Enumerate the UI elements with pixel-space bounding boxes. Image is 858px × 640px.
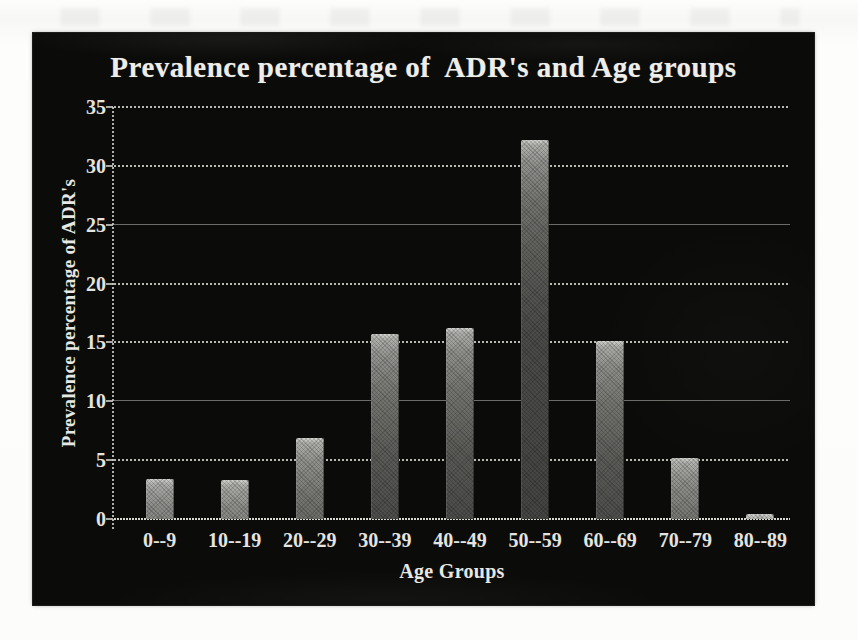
y-tick-mark-10 — [106, 400, 113, 402]
bar-30--39 — [371, 334, 399, 519]
bar-60--69 — [596, 341, 624, 519]
x-tick-label-30--39: 30--39 — [345, 529, 425, 552]
y-axis-line — [112, 107, 114, 531]
y-tick-label-0: 0 — [68, 507, 106, 531]
gridline-35 — [114, 106, 790, 108]
y-tick-label-25: 25 — [68, 213, 106, 237]
y-tick-label-10: 10 — [68, 389, 106, 413]
bar-70--79 — [671, 458, 699, 519]
y-tick-mark-5 — [106, 459, 113, 461]
x-axis-title: Age Groups — [114, 560, 790, 583]
y-tick-mark-0 — [106, 518, 113, 520]
gridline-30 — [114, 165, 790, 167]
y-tick-label-20: 20 — [68, 272, 106, 296]
scan-artifact-top — [60, 8, 800, 26]
x-tick-label-10--19: 10--19 — [195, 529, 275, 552]
x-tick-label-80--89: 80--89 — [720, 529, 800, 552]
bar-80--89 — [746, 514, 774, 519]
y-tick-mark-25 — [106, 224, 113, 226]
x-tick-label-70--79: 70--79 — [645, 529, 725, 552]
bar-40--49 — [446, 328, 474, 519]
y-tick-mark-20 — [106, 283, 113, 285]
y-tick-label-30: 30 — [68, 154, 106, 178]
bar-10--19 — [221, 480, 249, 519]
x-tick-label-20--29: 20--29 — [270, 529, 350, 552]
x-tick-label-40--49: 40--49 — [420, 529, 500, 552]
y-tick-label-35: 35 — [68, 95, 106, 119]
y-tick-label-5: 5 — [68, 448, 106, 472]
chart-panel: Prevalence percentage of ADR's and Age g… — [33, 33, 814, 605]
x-tick-label-0--9: 0--9 — [120, 529, 200, 552]
bar-0--9 — [146, 479, 174, 519]
chart-title: Prevalence percentage of ADR's and Age g… — [33, 51, 814, 84]
plot-area — [114, 107, 790, 519]
gridline-20 — [114, 283, 790, 285]
y-tick-mark-35 — [106, 106, 113, 108]
page: Prevalence percentage of ADR's and Age g… — [0, 0, 858, 640]
y-tick-mark-30 — [106, 165, 113, 167]
y-tick-mark-15 — [106, 341, 113, 343]
y-tick-label-15: 15 — [68, 330, 106, 354]
bar-20--29 — [296, 438, 324, 519]
bar-50--59 — [521, 140, 549, 519]
x-tick-label-50--59: 50--59 — [495, 529, 575, 552]
gridline-25 — [114, 224, 790, 225]
x-tick-label-60--69: 60--69 — [570, 529, 650, 552]
